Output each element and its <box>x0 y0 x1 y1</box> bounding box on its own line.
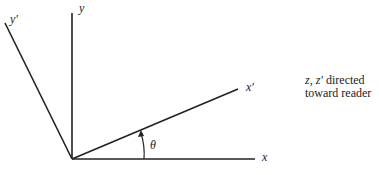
theta-label: θ <box>150 139 156 151</box>
x-axis-label: x <box>262 151 267 163</box>
z-note-line1: directed <box>323 73 365 87</box>
z-axis-note: z, z′ directed toward reader <box>305 74 371 100</box>
z-note-line2: toward reader <box>305 87 371 100</box>
y-prime-axis-label: y′ <box>10 13 18 25</box>
z-axes-vars: z, z′ <box>305 73 323 87</box>
y-prime-axis <box>5 23 72 159</box>
y-axis-label: y <box>79 2 84 14</box>
theta-arc <box>141 133 144 159</box>
x-prime-axis-label: x′ <box>246 81 254 93</box>
